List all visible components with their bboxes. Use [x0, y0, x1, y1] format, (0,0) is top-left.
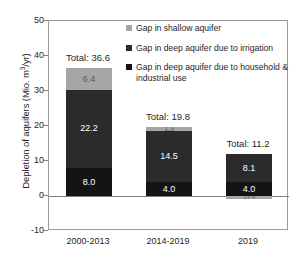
chart-legend: Gap in shallow aquiferGap in deep aquife… — [126, 23, 290, 92]
y-axis-tick-label: 50 — [18, 16, 44, 25]
bar-segment-value: 1.3 — [146, 127, 192, 132]
bar-segment[interactable]: 22.2 — [66, 90, 112, 168]
bar-segment-value: 8.1 — [226, 154, 272, 182]
bar-segment[interactable]: 8.1 — [226, 154, 272, 182]
legend-swatch-icon — [126, 45, 132, 51]
y-axis-tick-mark — [44, 160, 48, 161]
bar-segment[interactable]: 1.3 — [146, 127, 192, 132]
legend-item-label: Gap in shallow aquifer — [136, 23, 290, 34]
x-axis-tick-label: 2019 — [188, 236, 301, 247]
legend-item[interactable]: Gap in shallow aquifer — [126, 23, 290, 34]
bar-segment-value: 14.5 — [146, 131, 192, 182]
bar-segment-value: 8.0 — [66, 168, 112, 196]
y-axis-tick-mark — [44, 125, 48, 126]
y-axis-tick-label: 20 — [18, 121, 44, 130]
y-axis-tick-label: 30 — [18, 86, 44, 95]
y-axis-tick-label: 0 — [18, 191, 44, 200]
stacked-bar-chart: Depletion of aquifers (Mio. m3/yr) 50403… — [0, 0, 301, 264]
legend-swatch-icon — [126, 25, 132, 31]
legend-item-label: Gap in deep aquifer due to household & i… — [136, 62, 290, 83]
legend-item[interactable]: Gap in deep aquifer due to irrigation — [126, 43, 290, 54]
y-axis-tick-label: -10 — [18, 226, 44, 235]
bar-total-label: Total: 19.8 — [108, 111, 228, 122]
bar-segment[interactable]: 14.5 — [146, 131, 192, 182]
y-axis-tick-mark — [44, 20, 48, 21]
y-axis-tick-mark — [44, 90, 48, 91]
legend-item[interactable]: Gap in deep aquifer due to household & i… — [126, 62, 290, 83]
bar-segment-value: -0.9 — [226, 196, 272, 199]
bar-segment-value: 22.2 — [66, 90, 112, 168]
y-axis-tick-labels: 50403020100-10 — [14, 0, 44, 264]
bar-segment-value: 4.0 — [146, 182, 192, 196]
bar-segment[interactable]: 4.0 — [226, 182, 272, 196]
bar-segment[interactable]: 8.0 — [66, 168, 112, 196]
bar-segment-value: 4.0 — [226, 182, 272, 196]
legend-swatch-icon — [126, 64, 132, 70]
bar-total-label: Total: 36.6 — [28, 52, 148, 63]
bar-segment[interactable]: 4.0 — [146, 182, 192, 196]
bar-segment[interactable]: 6.4 — [66, 68, 112, 90]
legend-item-label: Gap in deep aquifer due to irrigation — [136, 43, 290, 54]
y-axis-tick-label: 10 — [18, 156, 44, 165]
bar-total-label: Total: 11.2 — [188, 138, 301, 149]
y-axis-tick-mark — [44, 230, 48, 231]
bar-segment-value: 6.4 — [66, 68, 112, 90]
y-axis-tick-mark — [44, 195, 48, 196]
bar-segment[interactable]: -0.9 — [226, 196, 272, 199]
